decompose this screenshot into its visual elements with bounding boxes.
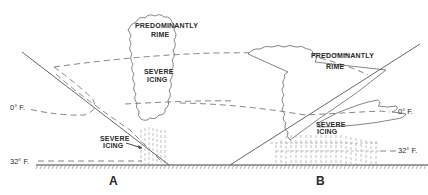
label-a-icing: ICING (147, 76, 168, 83)
label-a-rime: RIME (151, 31, 169, 38)
rain-hatch-b (270, 143, 380, 151)
label-b-severe: SEVERE (316, 121, 346, 128)
panel-label-a: A (109, 174, 118, 188)
front-line-b (230, 44, 420, 165)
label-b-0f: 0° F. (398, 107, 413, 116)
label-b-32f: 32° F. (398, 146, 417, 155)
label-b-rime: RIME (326, 63, 344, 70)
label-a-ground-icing: ICING (103, 142, 124, 149)
arrowhead-icon (138, 145, 142, 149)
ground-line (36, 165, 428, 169)
label-a-ground-severe: SEVERE (100, 135, 130, 142)
label-a-predominantly: PREDOMINANTLY (135, 22, 198, 29)
panel-b: PREDOMINANTLY RIME SEVERE ICING 0° F. 32… (180, 44, 420, 188)
label-a-0f: 0° F. (10, 103, 25, 112)
label-b-predominantly: PREDOMINANTLY (311, 52, 374, 59)
precipitation-a (141, 127, 165, 164)
icing-diagram: PREDOMINANTLY RIME SEVERE ICING SEVERE I… (0, 0, 428, 195)
label-a-32f: 32° F. (10, 157, 29, 166)
isotherm-0f-a-loop (28, 67, 95, 115)
panel-label-b: B (316, 174, 325, 188)
label-b-icing: ICING (317, 128, 338, 135)
label-a-severe: SEVERE (144, 68, 174, 75)
